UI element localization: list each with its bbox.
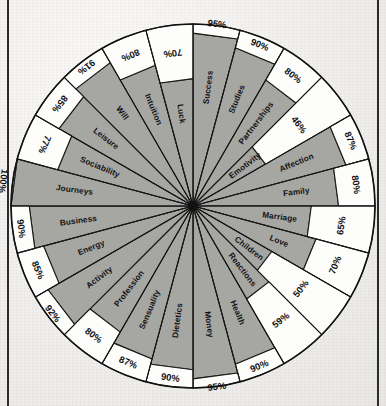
value-label: 100%	[0, 168, 11, 194]
value-label: 95%	[207, 380, 228, 393]
page-background: SuccessStudiesPartnershipsEmotivityAffec…	[0, 0, 386, 406]
chart-center-hub	[188, 201, 198, 211]
radial-sector-chart: SuccessStudiesPartnershipsEmotivityAffec…	[0, 0, 386, 406]
